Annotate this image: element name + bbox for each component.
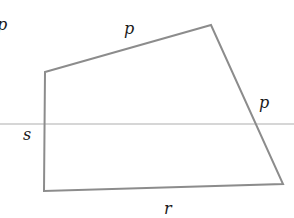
corner-label: p [0, 15, 7, 34]
quadrilateral-diagram: p p p s r [0, 0, 294, 218]
top-side-label: p [124, 19, 134, 38]
quadrilateral [44, 25, 283, 191]
left-side-label: s [23, 125, 31, 144]
right-side-label: p [259, 93, 269, 112]
bottom-side-label: r [164, 199, 173, 218]
